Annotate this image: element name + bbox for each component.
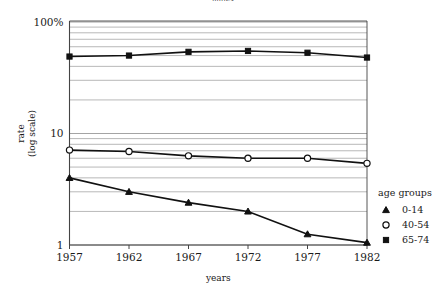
- marker-circle: [304, 155, 310, 161]
- series-40-54: [66, 147, 370, 166]
- series-line: [70, 150, 368, 163]
- marker-circle: [126, 148, 132, 154]
- x-tick-label: 1977: [294, 251, 321, 263]
- marker-square: [186, 49, 191, 54]
- x-axis-ticks: [70, 245, 368, 249]
- legend-item-0-14: 0-14: [383, 204, 424, 215]
- marker-circle: [245, 155, 251, 161]
- marker-square: [305, 50, 310, 55]
- marker-circle: [383, 222, 389, 228]
- legend-item-40-54: 40-54: [383, 219, 429, 230]
- x-tick-label: 1967: [175, 251, 202, 263]
- line-chart-svg: 100%101 195719621967197219771982 yearsra…: [0, 0, 446, 291]
- y-tick-label: 100%: [33, 16, 63, 28]
- y-tick-label: 10: [50, 127, 63, 139]
- marker-square: [126, 53, 131, 58]
- marker-triangle: [383, 207, 390, 213]
- series-line: [70, 178, 368, 243]
- y-axis-title-line2: (log scale): [27, 110, 37, 157]
- x-tick-label: 1957: [56, 251, 83, 263]
- x-tick-label: 1982: [354, 251, 381, 263]
- chart-figure: mules 100%101 195719621967197219771982 y…: [0, 0, 446, 291]
- marker-square: [364, 55, 369, 60]
- marker-circle: [185, 153, 191, 159]
- legend-item-label: 65-74: [402, 234, 429, 245]
- marker-square: [383, 237, 388, 242]
- marker-triangle: [66, 174, 73, 180]
- legend-item-label: 0-14: [402, 204, 423, 215]
- chart-legend: age groups0-1440-5465-74: [378, 187, 432, 245]
- legend-item-65-74: 65-74: [383, 234, 429, 245]
- legend-title: age groups: [378, 187, 432, 198]
- marker-square: [67, 54, 72, 59]
- series-0-14: [66, 174, 370, 245]
- clipped-figure-title: mules: [0, 0, 446, 1]
- x-axis-tick-labels: 195719621967197219771982: [56, 251, 380, 263]
- x-tick-label: 1962: [116, 251, 143, 263]
- legend-item-label: 40-54: [402, 219, 429, 230]
- y-axis-tick-labels: 100%101: [33, 16, 63, 251]
- series-65-74: [67, 48, 370, 60]
- y-axis-title-line1: rate: [16, 124, 26, 143]
- x-tick-label: 1972: [235, 251, 262, 263]
- y-tick-label: 1: [57, 239, 64, 251]
- data-series-group: [66, 48, 370, 245]
- marker-square: [245, 48, 250, 53]
- minor-gridlines: [70, 27, 368, 211]
- x-axis-title: years: [205, 273, 231, 283]
- marker-circle: [364, 160, 370, 166]
- marker-circle: [66, 147, 72, 153]
- series-line: [70, 51, 368, 58]
